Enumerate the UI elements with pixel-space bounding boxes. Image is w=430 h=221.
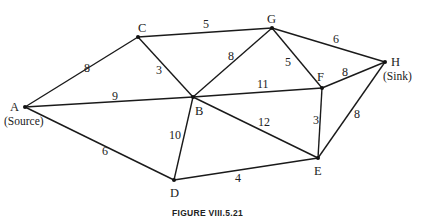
node-h-role-label: (Sink)	[383, 70, 412, 83]
edge-a-b	[25, 97, 193, 107]
edge-g-f	[272, 28, 322, 88]
node-e-label: E	[314, 164, 322, 178]
node-a-dot	[23, 105, 27, 109]
node-f-dot	[320, 86, 324, 90]
node-c-label: C	[138, 21, 146, 35]
node-a-role-label: (Source)	[4, 115, 44, 128]
edge-capacity-label: 8	[228, 49, 234, 63]
edge-capacity-label: 6	[333, 32, 339, 46]
edge-capacity-label: 8	[84, 61, 90, 75]
node-e-dot	[316, 156, 320, 160]
edge-d-e	[174, 158, 318, 180]
edge-capacity-label: 3	[156, 63, 162, 77]
flow-network-diagram: 896538111210568384 A(Source)BCDEFGH(Sink…	[0, 0, 430, 221]
node-d-dot	[172, 178, 176, 182]
figure-caption: FIGURE VIII.5.21	[172, 208, 243, 218]
edge-c-b	[138, 37, 193, 97]
edge-capacity-label: 10	[169, 128, 181, 142]
edges-group	[25, 28, 385, 180]
edge-capacity-label: 6	[102, 144, 108, 158]
node-d-label: D	[170, 186, 179, 200]
edge-a-c	[25, 37, 138, 107]
edge-capacity-label: 8	[342, 65, 348, 79]
node-h-label: H	[391, 55, 400, 69]
node-g-label: G	[267, 12, 276, 26]
edge-a-d	[25, 107, 174, 180]
node-g-dot	[270, 26, 274, 30]
node-c-dot	[136, 35, 140, 39]
node-b-label: B	[195, 104, 203, 118]
edge-capacity-label: 4	[235, 171, 241, 185]
edge-b-e	[193, 97, 318, 158]
edge-capacity-label: 5	[203, 17, 209, 31]
edge-capacity-label: 12	[258, 115, 270, 129]
edge-capacity-label: 9	[112, 89, 118, 103]
edge-capacity-label: 11	[257, 77, 269, 91]
node-b-dot	[191, 95, 195, 99]
nodes-group: A(Source)BCDEFGH(Sink)	[4, 12, 412, 200]
node-f-label: F	[317, 70, 324, 84]
edge-capacity-label: 8	[354, 107, 360, 121]
edge-capacity-label: 5	[285, 55, 291, 69]
node-h-dot	[383, 60, 387, 64]
edge-capacity-label: 3	[313, 113, 319, 127]
node-a-label: A	[10, 100, 19, 114]
